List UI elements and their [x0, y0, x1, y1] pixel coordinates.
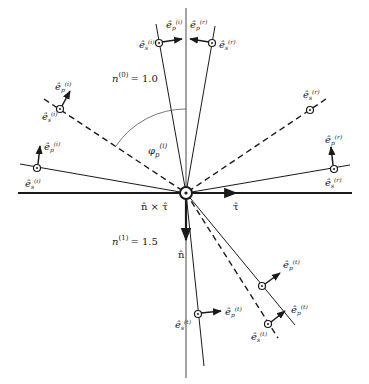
svg-text:ês(r): ês(r): [219, 38, 236, 51]
svg-text:êp(r): êp(r): [190, 18, 208, 32]
svg-text:τ̂: τ̂: [233, 201, 239, 212]
svg-text:ês(r): ês(r): [325, 176, 342, 189]
transmitted-ray-steep: [186, 193, 204, 366]
svg-text:êp(i): êp(i): [166, 18, 183, 32]
optics-interface-diagram: n(0)= 1.0 n(1)= 1.5 τ̂ n̂ n̂ × τ̂ φp(i) …: [0, 0, 369, 384]
svg-text:êp(r): êp(r): [325, 133, 343, 147]
svg-text:êp(t): êp(t): [291, 303, 309, 317]
svg-text:êp(t): êp(t): [225, 305, 243, 319]
svg-text:ês(r): ês(r): [303, 88, 320, 101]
svg-text:êp(i): êp(i): [44, 140, 61, 154]
svg-text:n(1)= 1.5: n(1)= 1.5: [112, 234, 158, 247]
reflected-ray-dashed: [186, 99, 326, 193]
vector-markers: [34, 40, 338, 328]
svg-text:ês(i): ês(i): [42, 110, 58, 123]
svg-text:n(0)= 1.0: n(0)= 1.0: [112, 71, 158, 84]
svg-text:ês(i): ês(i): [25, 177, 41, 190]
svg-text:n̂: n̂: [178, 249, 185, 260]
angle-arc: [116, 109, 186, 146]
incident-ray-steep: [156, 24, 186, 193]
incident-ray-grazing: [20, 164, 186, 193]
svg-text:φp(i): φp(i): [148, 142, 167, 159]
svg-text:êp(t): êp(t): [283, 258, 301, 272]
svg-text:n̂ × τ̂: n̂ × τ̂: [141, 201, 168, 212]
svg-text:ês(i): ês(i): [139, 38, 155, 51]
reflected-ray-steep: [186, 26, 215, 193]
p-arrows: [38, 39, 333, 322]
svg-text:ês(t): ês(t): [175, 318, 192, 331]
svg-text:ês(t): ês(t): [251, 330, 268, 343]
